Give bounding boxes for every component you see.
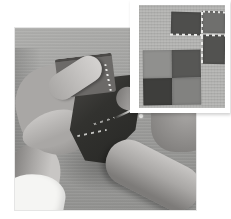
four-patch-square-top-right [172,49,201,77]
page-background [0,0,231,219]
sewing-pin-head [139,114,143,118]
four-patch-square-bottom-right [172,77,201,105]
patch-top-right-square [202,11,225,33]
four-patch-square-top-left [143,50,172,78]
patch-right-middle-square [203,35,225,64]
inset-photo-frame [130,0,230,113]
basting-stitch-vertical [201,12,203,64]
inset-photo [139,5,225,108]
patch-top-dark-square [171,12,202,36]
four-patch-square-bottom-left [143,78,172,106]
basting-stitch-horizontal [170,34,225,37]
four-patch-block [143,49,202,105]
